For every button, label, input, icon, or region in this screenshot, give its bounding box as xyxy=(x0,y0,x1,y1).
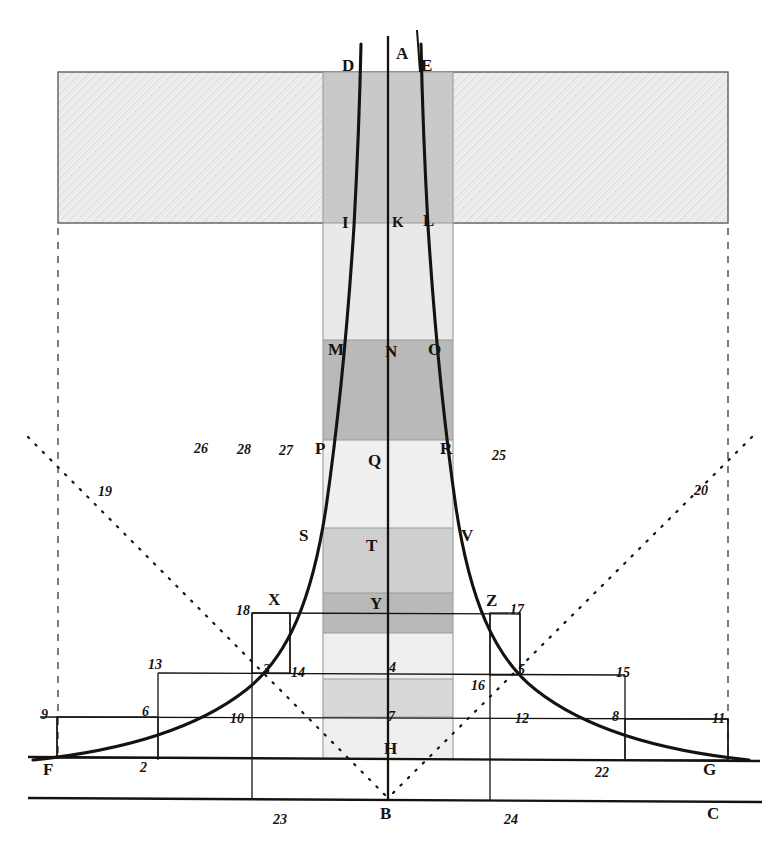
label-14: 14 xyxy=(291,666,305,680)
box-left-2 xyxy=(57,717,158,758)
baseline xyxy=(28,798,762,802)
label-6: 6 xyxy=(142,705,149,719)
label-N: N xyxy=(385,343,398,360)
label-M: M xyxy=(328,341,344,358)
label-25: 25 xyxy=(492,449,506,463)
label-Q: Q xyxy=(368,452,382,469)
label-26: 26 xyxy=(194,442,208,456)
diagram-canvas xyxy=(0,0,780,859)
label-B: B xyxy=(380,805,392,822)
label-18: 18 xyxy=(236,604,250,618)
label-I: I xyxy=(342,214,349,231)
label-16: 16 xyxy=(471,679,485,693)
label-13: 13 xyxy=(148,658,162,672)
label-28: 28 xyxy=(237,443,251,457)
label-24: 24 xyxy=(504,813,518,827)
label-4: 4 xyxy=(389,661,396,675)
label-L: L xyxy=(423,212,435,229)
label-K: K xyxy=(392,215,404,230)
label-Z: Z xyxy=(486,592,498,609)
label-23: 23 xyxy=(273,813,287,827)
label-H: H xyxy=(384,740,398,757)
label-8: 8 xyxy=(612,710,619,724)
label-A: A xyxy=(396,45,409,62)
label-F: F xyxy=(43,761,54,778)
label-11: 11 xyxy=(712,712,725,726)
label-20: 20 xyxy=(694,484,708,498)
label-E: E xyxy=(421,57,433,74)
axis-tick-right xyxy=(417,30,420,72)
label-C: C xyxy=(707,805,720,822)
label-O: O xyxy=(428,341,442,358)
label-P: P xyxy=(315,440,326,457)
label-D: D xyxy=(342,57,355,74)
label-T: T xyxy=(366,537,378,554)
label-15: 15 xyxy=(616,666,630,680)
label-2: 2 xyxy=(140,761,147,775)
label-G: G xyxy=(703,761,717,778)
label-12: 12 xyxy=(515,712,529,726)
label-Y: Y xyxy=(370,595,383,612)
label-S: S xyxy=(299,527,309,544)
label-17: 17 xyxy=(510,603,524,617)
label-3: 3 xyxy=(263,663,270,677)
label-10: 10 xyxy=(230,712,244,726)
label-19: 19 xyxy=(98,485,112,499)
label-V: V xyxy=(461,527,474,544)
label-22: 22 xyxy=(595,766,609,780)
figure-root: A D E I K L M N O P Q R S T V X Y Z H F … xyxy=(0,0,780,859)
label-9: 9 xyxy=(41,708,48,722)
base-rules xyxy=(28,757,762,802)
label-X: X xyxy=(268,591,281,608)
box-right-5-17 xyxy=(490,613,520,675)
label-R: R xyxy=(440,440,453,457)
label-27: 27 xyxy=(279,444,293,458)
label-5: 5 xyxy=(518,663,525,677)
label-7: 7 xyxy=(388,710,395,724)
rule-level-18-17 xyxy=(252,613,520,614)
